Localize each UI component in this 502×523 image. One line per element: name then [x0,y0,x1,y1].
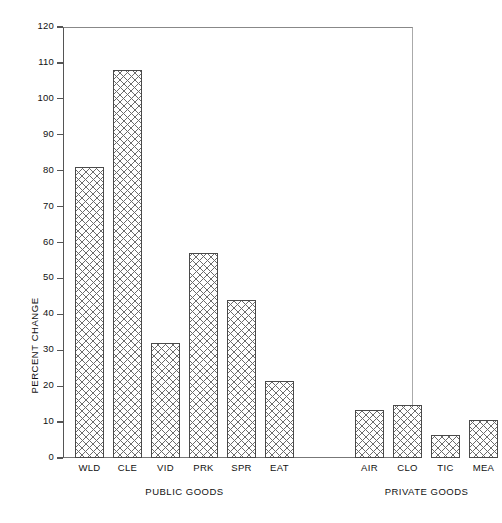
bar [75,167,104,458]
y-axis-tick-label: 80 [43,164,54,175]
bar-series [63,27,413,458]
y-axis-tick-label: 120 [38,20,54,31]
x-axis-group-label: PRIVATE GOODS [357,486,497,497]
x-axis-tick-labels: WLDCLEVIDPRKSPREATAIRCLOTICMEA [63,462,413,478]
x-axis-tick-label: EAT [257,462,302,473]
bar [355,410,384,458]
y-axis-tick-label: 20 [43,379,54,390]
y-axis-tick-label: 50 [43,271,54,282]
y-axis-tick-label: 0 [49,451,54,462]
y-axis-tick-label: 30 [43,343,54,354]
y-axis-tick-label: 10 [43,415,54,426]
x-axis-group-label: PUBLIC GOODS [115,486,255,497]
bar [189,253,218,458]
bar [393,405,422,458]
y-axis-tick-label: 40 [43,307,54,318]
bar [151,343,180,458]
y-axis-title: PERCENT CHANGE [29,266,40,426]
y-axis-tick-label: 100 [38,92,54,103]
bar [265,381,294,458]
x-axis-group-labels: PUBLIC GOODSPRIVATE GOODS [63,486,413,502]
x-axis-tick-label: MEA [461,462,502,473]
bar [113,70,142,458]
y-axis-tick-label: 70 [43,200,54,211]
y-axis-title-wrapper: PERCENT CHANGE [16,140,30,300]
bar [469,420,498,458]
bar [431,435,460,458]
y-axis-tick-label: 60 [43,236,54,247]
bar [227,300,256,458]
y-axis-tick-label: 90 [43,128,54,139]
y-axis-tick-label: 110 [38,56,54,67]
